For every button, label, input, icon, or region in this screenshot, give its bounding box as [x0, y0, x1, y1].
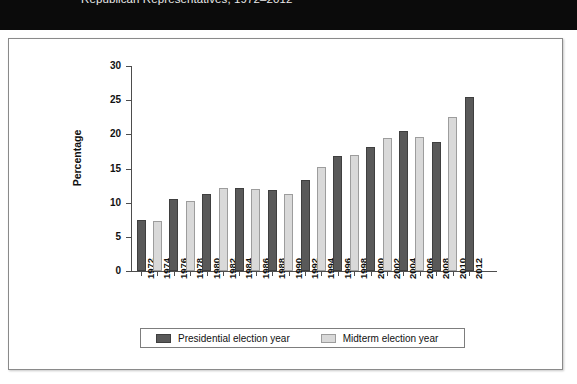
- bar-chart: 051015202530 Percentage 1972197419761978…: [9, 39, 564, 371]
- y-tick: [126, 134, 131, 135]
- y-tick-label: 10: [81, 197, 121, 208]
- x-tick-label: 2012: [473, 258, 484, 279]
- y-tick-label: 20: [81, 128, 121, 139]
- x-tick: [190, 272, 191, 276]
- x-tick: [403, 272, 404, 276]
- bar-2004: [399, 131, 408, 271]
- figure-panel: 051015202530 Percentage 1972197419761978…: [8, 38, 563, 370]
- bar-1994: [317, 167, 326, 271]
- y-tick: [126, 66, 131, 67]
- bar-1990: [284, 194, 293, 271]
- bar-1996: [333, 156, 342, 271]
- bar-1984: [235, 188, 244, 271]
- bar-1972: [137, 220, 146, 271]
- y-axis-line: [131, 66, 132, 271]
- legend-label-presidential: Presidential election year: [178, 333, 290, 344]
- x-tick: [256, 272, 257, 276]
- x-tick: [207, 272, 208, 276]
- x-tick: [157, 272, 158, 276]
- bar-2000: [366, 147, 375, 271]
- y-tick-label: 0: [81, 265, 121, 276]
- y-axis-title: Percentage: [71, 88, 83, 228]
- x-tick: [272, 272, 273, 276]
- bar-1976: [169, 199, 178, 271]
- chart-legend: Presidential election year Midterm elect…: [140, 328, 465, 348]
- x-tick: [387, 272, 388, 276]
- x-tick: [305, 272, 306, 276]
- bar-2012: [465, 97, 474, 271]
- y-tick: [126, 100, 131, 101]
- y-tick: [126, 203, 131, 204]
- x-tick: [371, 272, 372, 276]
- bar-1986: [251, 189, 260, 271]
- x-tick: [141, 272, 142, 276]
- bar-1980: [202, 194, 211, 271]
- bar-2006: [415, 137, 424, 271]
- x-tick: [354, 272, 355, 276]
- x-tick: [436, 272, 437, 276]
- y-tick-label: 5: [81, 231, 121, 242]
- bar-2008: [432, 142, 441, 271]
- y-tick-label: 30: [81, 60, 121, 71]
- title-banner: Republican Representatives, 1972–2012: [0, 0, 577, 30]
- bar-2010: [448, 117, 457, 271]
- bar-1974: [153, 221, 162, 271]
- x-tick: [239, 272, 240, 276]
- x-tick: [174, 272, 175, 276]
- y-tick: [126, 169, 131, 170]
- page-title: Republican Representatives, 1972–2012: [81, 0, 293, 5]
- y-tick: [126, 271, 131, 272]
- legend-swatch-midterm-icon: [321, 334, 336, 343]
- x-tick: [289, 272, 290, 276]
- bar-1978: [186, 201, 195, 271]
- x-tick: [223, 272, 224, 276]
- bar-1988: [268, 190, 277, 271]
- y-tick-label: 15: [81, 163, 121, 174]
- x-tick: [321, 272, 322, 276]
- legend-item-presidential: Presidential election year: [156, 333, 290, 344]
- x-tick: [453, 272, 454, 276]
- x-tick: [420, 272, 421, 276]
- legend-item-midterm: Midterm election year: [321, 333, 439, 344]
- bar-1982: [219, 188, 228, 271]
- x-tick: [469, 272, 470, 276]
- bar-2002: [383, 138, 392, 271]
- y-tick-label: 25: [81, 94, 121, 105]
- bar-1998: [350, 155, 359, 271]
- legend-label-midterm: Midterm election year: [343, 333, 439, 344]
- bar-1992: [301, 180, 310, 271]
- y-axis-title-wrap: Percentage: [67, 66, 81, 271]
- y-tick: [126, 237, 131, 238]
- x-tick: [338, 272, 339, 276]
- legend-swatch-presidential-icon: [156, 334, 171, 343]
